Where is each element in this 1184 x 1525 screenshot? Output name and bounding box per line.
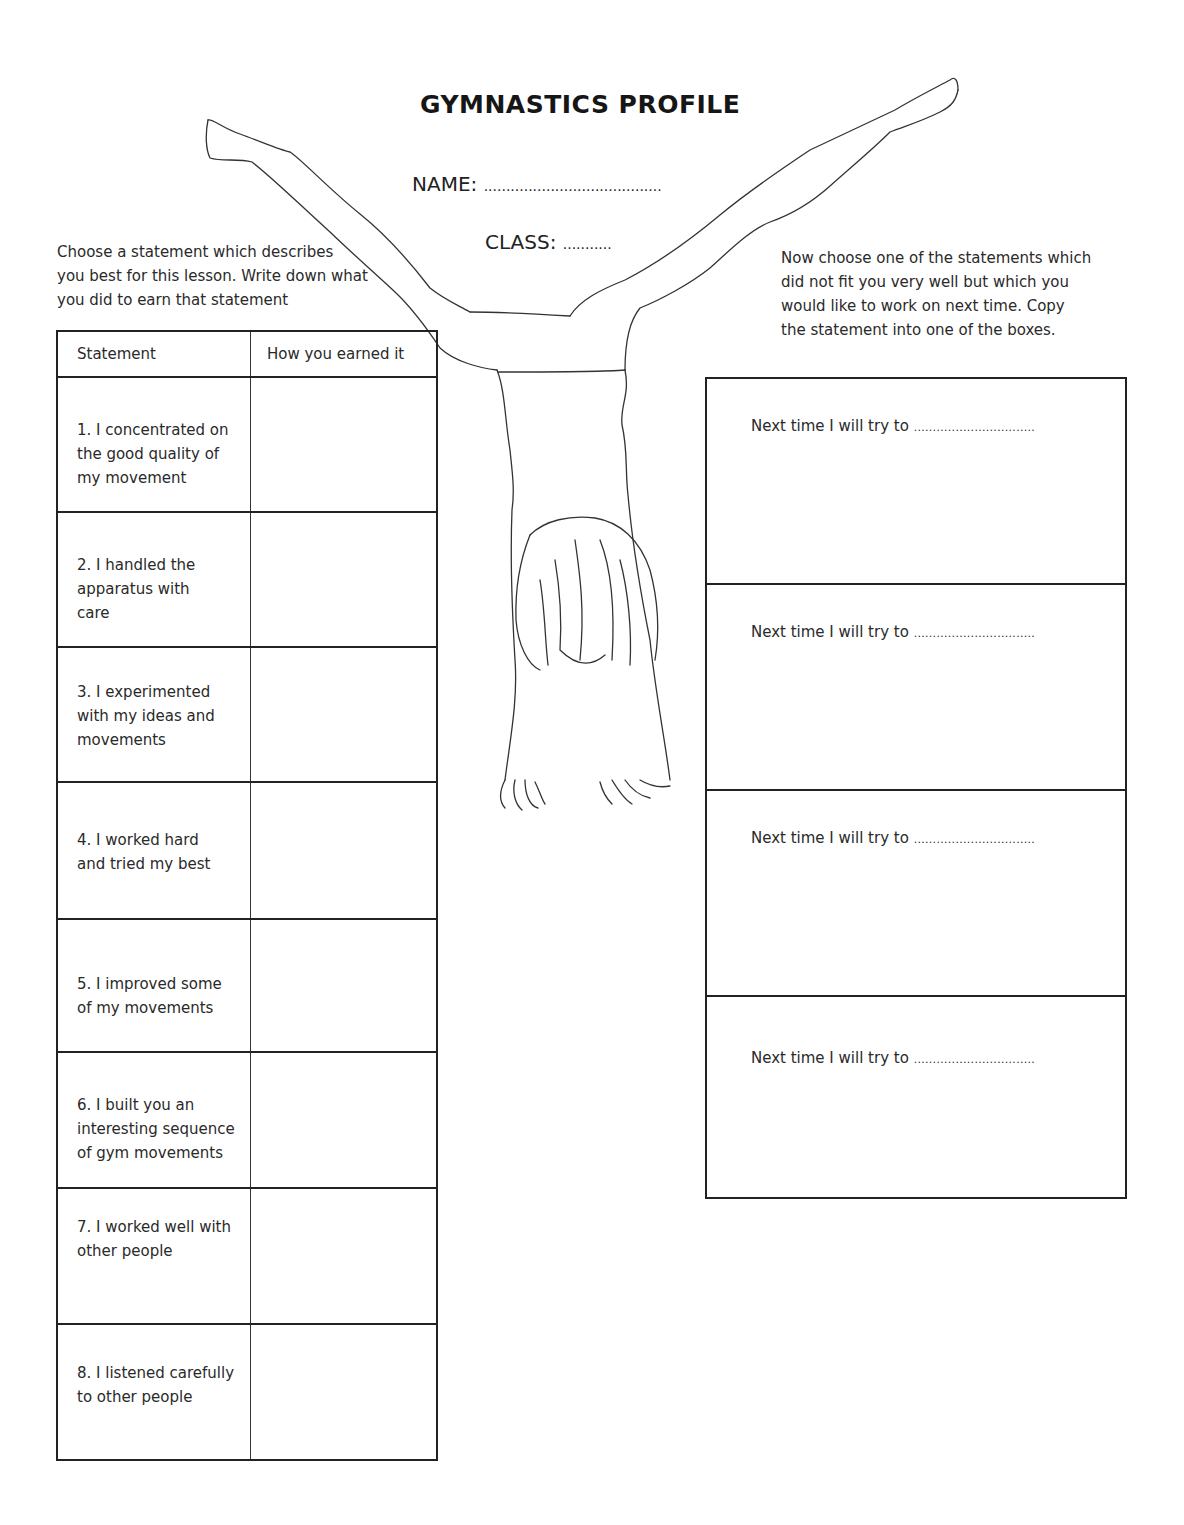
statement-cell: 5. I improved some of my movements [58, 920, 251, 1051]
next-time-blank[interactable]: ................................ [914, 1053, 1036, 1066]
how-earned-input[interactable] [251, 513, 436, 646]
statement-text: 8. I listened carefully [77, 1361, 234, 1385]
how-earned-input[interactable] [251, 378, 436, 511]
statement-text: interesting sequence [77, 1117, 235, 1141]
instruction-line: would like to work on next time. Copy [781, 294, 1091, 318]
statement-text: 3. I experimented [77, 680, 215, 704]
statement-text: my movement [77, 466, 229, 490]
table-row: 3. I experimented with my ideas and move… [58, 648, 436, 783]
table-row: 1. I concentrated on the good quality of… [58, 378, 436, 513]
statement-text: the good quality of [77, 442, 229, 466]
statement-text: other people [77, 1239, 231, 1263]
statement-text: to other people [77, 1385, 234, 1409]
statement-table: Statement How you earned it 1. I concent… [56, 330, 438, 1461]
next-time-blank[interactable]: ................................ [914, 421, 1036, 434]
right-instructions: Now choose one of the statements which d… [781, 246, 1091, 342]
column-header-statement: Statement [58, 332, 251, 376]
class-blank[interactable]: ........... [563, 236, 612, 252]
column-header-how-earned: How you earned it [251, 332, 436, 376]
instruction-line: did not fit you very well but which you [781, 270, 1091, 294]
statement-text: care [77, 601, 195, 625]
name-field[interactable]: NAME: ..................................… [412, 172, 662, 196]
next-time-boxes: Next time I will try to ................… [705, 377, 1127, 1199]
statement-text: movements [77, 728, 215, 752]
statement-text: and tried my best [77, 852, 210, 876]
statement-text: 5. I improved some [77, 972, 222, 996]
next-time-box[interactable]: Next time I will try to ................… [707, 585, 1125, 791]
table-row: 7. I worked well with other people [58, 1189, 436, 1325]
next-time-prompt: Next time I will try to [751, 1049, 909, 1067]
instruction-line: Now choose one of the statements which [781, 246, 1091, 270]
next-time-box[interactable]: Next time I will try to ................… [707, 791, 1125, 997]
statement-cell: 8. I listened carefully to other people [58, 1325, 251, 1459]
how-earned-input[interactable] [251, 648, 436, 781]
statement-cell: 6. I built you an interesting sequence o… [58, 1053, 251, 1187]
how-earned-input[interactable] [251, 783, 436, 918]
table-row: 2. I handled the apparatus with care [58, 513, 436, 648]
table-row: 6. I built you an interesting sequence o… [58, 1053, 436, 1189]
statement-text: of gym movements [77, 1141, 235, 1165]
how-earned-input[interactable] [251, 1325, 436, 1459]
how-earned-input[interactable] [251, 1053, 436, 1187]
how-earned-input[interactable] [251, 920, 436, 1051]
next-time-box[interactable]: Next time I will try to ................… [707, 379, 1125, 585]
statement-text: 7. I worked well with [77, 1215, 231, 1239]
how-earned-input[interactable] [251, 1189, 436, 1323]
left-instructions: Choose a statement which describes you b… [57, 240, 368, 312]
statement-cell: 1. I concentrated on the good quality of… [58, 378, 251, 511]
table-header-row: Statement How you earned it [58, 332, 436, 378]
statement-cell: 2. I handled the apparatus with care [58, 513, 251, 646]
statement-text: 6. I built you an [77, 1093, 235, 1117]
statement-text: 2. I handled the [77, 553, 195, 577]
table-row: 4. I worked hard and tried my best [58, 783, 436, 920]
next-time-blank[interactable]: ................................ [914, 833, 1036, 846]
name-label: NAME: [412, 172, 477, 196]
instruction-line: the statement into one of the boxes. [781, 318, 1091, 342]
statement-cell: 7. I worked well with other people [58, 1189, 251, 1323]
next-time-prompt: Next time I will try to [751, 829, 909, 847]
statement-text: 1. I concentrated on [77, 418, 229, 442]
statement-cell: 4. I worked hard and tried my best [58, 783, 251, 918]
page-title: GYMNASTICS PROFILE [420, 90, 740, 119]
statement-text: 4. I worked hard [77, 828, 210, 852]
table-row: 5. I improved some of my movements [58, 920, 436, 1053]
statement-text: apparatus with [77, 577, 195, 601]
next-time-prompt: Next time I will try to [751, 417, 909, 435]
statement-cell: 3. I experimented with my ideas and move… [58, 648, 251, 781]
next-time-blank[interactable]: ................................ [914, 627, 1036, 640]
statement-text: of my movements [77, 996, 222, 1020]
next-time-prompt: Next time I will try to [751, 623, 909, 641]
statement-text: with my ideas and [77, 704, 215, 728]
name-blank[interactable]: ........................................ [484, 178, 662, 194]
instruction-line: you did to earn that statement [57, 288, 368, 312]
instruction-line: Choose a statement which describes [57, 240, 368, 264]
instruction-line: you best for this lesson. Write down wha… [57, 264, 368, 288]
class-field[interactable]: CLASS: ........... [485, 230, 612, 254]
table-row: 8. I listened carefully to other people [58, 1325, 436, 1459]
next-time-box[interactable]: Next time I will try to ................… [707, 997, 1125, 1197]
class-label: CLASS: [485, 230, 556, 254]
